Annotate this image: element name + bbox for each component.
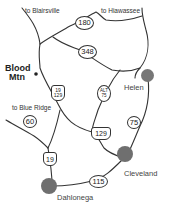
route-19-129-shield: 19 129 xyxy=(51,85,65,101)
route-alt75-shield: ALT 75 xyxy=(97,85,111,102)
road-connector xyxy=(48,110,60,148)
cleveland-dot xyxy=(117,146,133,162)
route-alt75-bottom: 75 xyxy=(101,94,106,99)
helen-dot xyxy=(141,69,154,82)
dahlonega-dot xyxy=(41,178,57,194)
route-180-shield: 180 xyxy=(75,16,94,30)
route-129-shield: 129 xyxy=(91,127,111,140)
blood-mtn-label: Blood Mtn xyxy=(5,64,31,81)
blood-mtn-line2: Mtn xyxy=(5,73,31,82)
road-hiawassee xyxy=(135,8,148,78)
route-348-shield: 348 xyxy=(78,45,97,59)
route-19-129-bottom: 129 xyxy=(54,93,62,98)
route-60-shield: 60 xyxy=(23,115,37,128)
dahlonega-label: Dahlonega xyxy=(57,194,93,202)
blood-mtn-marker xyxy=(34,72,38,76)
route-115-shield: 115 xyxy=(89,175,108,188)
road-115 xyxy=(52,160,122,186)
helen-label: Helen xyxy=(124,84,144,92)
to-hiawassee-label: to Hiawassee xyxy=(101,8,140,15)
to-blairsville-label: to Blairsville xyxy=(25,8,60,15)
route-19-shield: 19 xyxy=(43,152,57,166)
cleveland-label: Cleveland xyxy=(124,170,157,178)
to-blue-ridge-label: to Blue Ridge xyxy=(12,105,51,112)
route-75-shield: 75 xyxy=(127,116,141,129)
